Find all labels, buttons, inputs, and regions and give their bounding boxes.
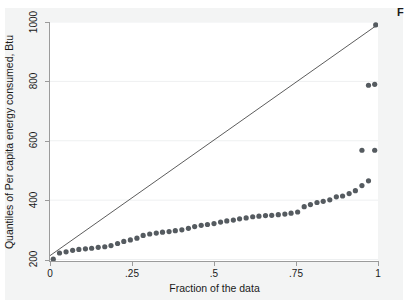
x-tick-1 <box>378 262 379 266</box>
data-point <box>237 216 242 221</box>
plot-area <box>50 22 378 261</box>
data-point <box>372 148 377 153</box>
data-point <box>83 246 88 251</box>
y-axis-title: Quantiles of Per capita energy consumed,… <box>3 35 15 249</box>
data-point <box>115 241 120 246</box>
y-tick-label-600: 600 <box>28 132 39 149</box>
x-axis-title: Fraction of the data <box>50 282 379 294</box>
data-point <box>314 200 319 205</box>
data-point <box>134 236 139 241</box>
data-point <box>269 213 274 218</box>
data-point <box>327 197 332 202</box>
data-point <box>263 213 268 218</box>
data-point <box>256 214 261 219</box>
scatter-series <box>51 148 378 261</box>
y-tick-label-800: 800 <box>28 73 39 90</box>
y-tick-800 <box>45 81 49 82</box>
data-point <box>141 233 146 238</box>
x-tick-label-0: 0 <box>30 268 70 280</box>
y-tick-1000 <box>45 22 49 23</box>
data-point <box>288 211 293 216</box>
x-tick-.75 <box>296 262 297 266</box>
data-point <box>102 244 107 249</box>
data-point <box>211 221 216 226</box>
data-point <box>199 223 204 228</box>
y-tick-label-400: 400 <box>28 191 39 208</box>
data-point <box>366 178 371 183</box>
data-point <box>63 249 68 254</box>
quantile-plot-figure: F 0.25.5.751 2004006008001000 Fraction o… <box>0 0 408 306</box>
figure-corner-note: F <box>397 6 404 18</box>
y-tick-label-200: 200 <box>28 251 39 268</box>
data-point <box>359 148 364 153</box>
x-tick-0 <box>50 262 51 266</box>
y-axis-line <box>49 22 50 262</box>
plot-svg <box>50 22 378 261</box>
data-point <box>192 224 197 229</box>
x-tick-label-.5: .5 <box>194 268 234 280</box>
data-point <box>366 83 371 88</box>
data-point <box>128 237 133 242</box>
data-point <box>250 214 255 219</box>
data-point <box>70 248 75 253</box>
data-point <box>147 231 152 236</box>
data-point <box>179 227 184 232</box>
y-tick-label-wrap: 800 <box>22 75 44 86</box>
x-tick-.5 <box>214 262 215 266</box>
data-point <box>121 239 126 244</box>
y-axis-title-wrap: Quantiles of Per capita energy consumed,… <box>0 22 18 262</box>
data-point <box>224 218 229 223</box>
data-point <box>108 243 113 248</box>
y-tick-label-wrap: 400 <box>22 194 44 205</box>
y-tick-600 <box>45 141 49 142</box>
x-tick-.25 <box>132 262 133 266</box>
data-point <box>308 202 313 207</box>
data-point <box>96 245 101 250</box>
data-point <box>57 250 62 255</box>
data-point <box>205 222 210 227</box>
data-point <box>231 217 236 222</box>
y-tick-200 <box>45 260 49 261</box>
data-point <box>186 226 191 231</box>
data-point <box>340 193 345 198</box>
data-point <box>302 204 307 209</box>
data-point <box>154 230 159 235</box>
data-point <box>218 220 223 225</box>
y-tick-label-1000: 1000 <box>28 10 39 32</box>
data-point <box>353 188 358 193</box>
data-point <box>282 211 287 216</box>
reference-line <box>50 24 378 255</box>
data-point <box>166 229 171 234</box>
scatter-series <box>359 82 377 153</box>
y-tick-label-wrap: 1000 <box>22 16 44 27</box>
data-point <box>89 246 94 251</box>
x-tick-label-1: 1 <box>358 268 398 280</box>
data-point <box>173 228 178 233</box>
data-point <box>321 199 326 204</box>
data-point <box>276 212 281 217</box>
y-tick-label-wrap: 200 <box>22 254 44 265</box>
data-point <box>244 215 249 220</box>
data-point <box>347 191 352 196</box>
x-tick-label-.25: .25 <box>112 268 152 280</box>
data-point <box>359 183 364 188</box>
data-point <box>160 230 165 235</box>
y-tick-400 <box>45 200 49 201</box>
data-point <box>334 194 339 199</box>
x-tick-label-.75: .75 <box>276 268 316 280</box>
data-point <box>372 82 377 87</box>
data-point <box>295 209 300 214</box>
data-point <box>76 247 81 252</box>
y-tick-label-wrap: 600 <box>22 135 44 146</box>
